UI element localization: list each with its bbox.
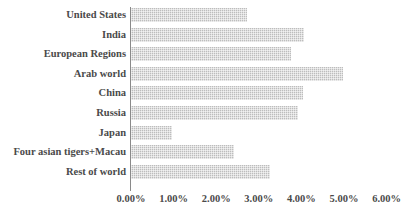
category-label-four-asian-tigers-macau: Four asian tigers+Macau xyxy=(0,145,126,159)
bar-rows: United States India European Regions Ara… xyxy=(0,8,394,184)
bar-track xyxy=(131,106,298,120)
category-label-european-regions: European Regions xyxy=(0,47,126,61)
table-row: India xyxy=(0,28,394,48)
bar-track xyxy=(131,145,234,159)
bar-japan xyxy=(131,126,172,140)
table-row: Four asian tigers+Macau xyxy=(0,145,394,165)
bar-european-regions xyxy=(131,47,291,61)
bar-track xyxy=(131,126,172,140)
bar-russia xyxy=(131,106,298,120)
bar-track xyxy=(131,67,343,81)
table-row: China xyxy=(0,86,394,106)
category-label-arab-world: Arab world xyxy=(0,67,126,81)
x-axis: 0.00% 1.00% 2.00% 3.00% 4.00% 5.00% 6.00… xyxy=(0,193,394,213)
bar-track xyxy=(131,28,304,42)
table-row: Japan xyxy=(0,126,394,146)
bar-track xyxy=(131,86,303,100)
bar-arab-world xyxy=(131,67,343,81)
bar-united-states xyxy=(131,8,247,22)
bar-track xyxy=(131,8,247,22)
category-label-rest-of-world: Rest of world xyxy=(0,165,126,179)
table-row: Rest of world xyxy=(0,165,394,185)
bar-four-asian-tigers-macau xyxy=(131,145,234,159)
bar-china xyxy=(131,86,303,100)
category-label-united-states: United States xyxy=(0,8,126,22)
category-label-russia: Russia xyxy=(0,106,126,120)
table-row: European Regions xyxy=(0,47,394,67)
category-label-india: India xyxy=(0,28,126,42)
bar-india xyxy=(131,28,304,42)
table-row: Arab world xyxy=(0,67,394,87)
bar-track xyxy=(131,165,270,179)
bar-track xyxy=(131,47,291,61)
table-row: Russia xyxy=(0,106,394,126)
bar-rest-of-world xyxy=(131,165,270,179)
table-row: United States xyxy=(0,8,394,28)
x-tick-label-6: 6.00% xyxy=(357,193,405,204)
category-label-japan: Japan xyxy=(0,126,126,140)
category-label-china: China xyxy=(0,86,126,100)
